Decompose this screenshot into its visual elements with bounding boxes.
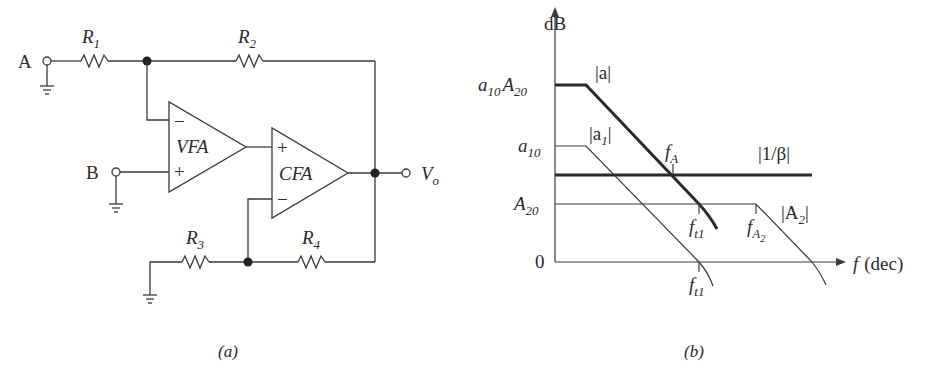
ground-icon	[109, 204, 123, 212]
terminal-vo	[402, 169, 410, 177]
caption-a: (a)	[218, 342, 238, 361]
junction-node	[244, 258, 253, 267]
marker-ft1-upper-label: ft1	[689, 216, 704, 241]
marker-ft1-lower-label: ft1	[689, 274, 704, 299]
resistor-r1	[81, 55, 108, 67]
vo-label: Vo	[421, 163, 440, 188]
terminal-b	[112, 168, 120, 176]
r3-label: R3	[185, 227, 205, 252]
r2-label: R2	[237, 26, 257, 51]
terminal-a	[43, 57, 51, 65]
output-node	[371, 169, 380, 178]
resistor-r3	[182, 256, 209, 268]
curve-a	[555, 85, 717, 229]
figure-canvas: A R1 R2 − + VFA B	[0, 0, 931, 384]
wire	[147, 61, 169, 120]
vfa-plus-sign: +	[174, 161, 185, 182]
y-label-a10: a10	[518, 135, 541, 160]
marker-fA-label: fA	[665, 141, 678, 166]
ground-icon	[40, 86, 54, 94]
ground-icon	[143, 295, 157, 303]
bode-plot: dB f(dec) a10A20 a10 A20 0 |a1| |A2| |1/…	[478, 7, 903, 361]
cfa-label: CFA	[279, 163, 313, 184]
circuit-schematic: A R1 R2 − + VFA B	[18, 26, 440, 361]
r4-label: R4	[301, 227, 321, 252]
cfa-minus-sign: −	[277, 189, 288, 210]
vfa-label: VFA	[176, 136, 209, 157]
terminal-b-label: B	[86, 162, 99, 183]
curve-a1-label: |a1|	[589, 123, 612, 148]
wire	[150, 262, 182, 295]
resistor-r2	[236, 55, 263, 67]
y-label-A20: A20	[512, 193, 539, 218]
curve-a-label: |a|	[595, 62, 611, 83]
curve-inverse-beta-label: |1/β|	[758, 143, 790, 164]
y-axis-label: dB	[544, 13, 566, 34]
terminal-a-label: A	[18, 51, 32, 72]
curve-A2-label: |A2|	[781, 202, 809, 227]
caption-b: (b)	[684, 342, 704, 361]
r1-label: R1	[81, 26, 100, 51]
cfa-plus-sign: +	[277, 137, 288, 158]
resistor-r4	[298, 256, 325, 268]
wire	[248, 199, 272, 262]
vfa-minus-sign: −	[174, 111, 185, 132]
x-axis-label: f(dec)	[853, 253, 903, 275]
y-label-a10A20: a10A20	[478, 74, 528, 99]
x-axis-arrow-icon	[836, 258, 846, 266]
y-label-zero: 0	[535, 251, 545, 272]
marker-fA2-label: fA2	[747, 216, 765, 244]
